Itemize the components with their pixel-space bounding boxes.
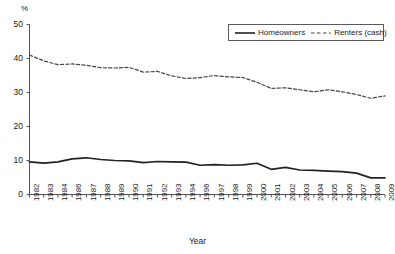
legend-line-dashed-icon (311, 30, 331, 36)
x-axis-title: Year (0, 236, 395, 246)
x-axis-tick-2009: 2009 (388, 183, 395, 200)
x-axis-tick-1993: 1993 (175, 183, 183, 200)
x-axis-tick-1988: 1988 (104, 183, 112, 200)
x-axis-tick-2007: 2007 (360, 183, 368, 200)
x-axis-tick-1983: 1983 (47, 183, 55, 200)
chart-legend: Homeowners Renters (cash) (228, 24, 384, 41)
x-axis-tick-1996: 1996 (203, 183, 211, 200)
y-axis-tick-20: 20 (6, 122, 23, 131)
data-series (30, 55, 386, 178)
x-axis-tick-2005: 2005 (331, 183, 339, 200)
legend-label-homeowners: Homeowners (258, 28, 305, 37)
x-axis-tick-2004: 2004 (317, 183, 325, 200)
x-axis-tick-1987: 1987 (90, 183, 98, 200)
x-axis-tick-1997: 1997 (218, 183, 226, 200)
x-axis-tick-1998: 1998 (232, 183, 240, 200)
x-axis-tick-2003: 2003 (303, 183, 311, 200)
x-axis-tick-1991: 1991 (146, 183, 154, 200)
x-axis-tick-2006: 2006 (346, 183, 354, 200)
y-axis-unit-label: % (21, 4, 28, 13)
x-axis-tick-2000: 2000 (260, 183, 268, 200)
legend-line-solid-icon (235, 30, 255, 36)
x-axis-tick-1990: 1990 (132, 183, 140, 200)
x-axis-tick-2008: 2008 (374, 183, 382, 200)
y-axis-tick-40: 40 (6, 54, 23, 63)
x-axis-tick-1984: 1984 (61, 183, 69, 200)
series-line-renters-cash (30, 55, 386, 98)
y-axis-tick-30: 30 (6, 88, 23, 97)
series-line-homeowners (30, 158, 386, 178)
y-axis-tick-50: 50 (6, 20, 23, 29)
x-axis-tick-1999: 1999 (246, 183, 254, 200)
x-axis-tick-2001: 2001 (274, 183, 282, 200)
x-axis-tick-1982: 1982 (33, 183, 41, 200)
x-axis-tick-2002: 2002 (289, 183, 297, 200)
line-chart: % 01020304050 19821983198419861987198819… (0, 0, 395, 254)
y-axis-tick-10: 10 (6, 156, 23, 165)
legend-entry-renters: Renters (cash) (311, 28, 386, 37)
x-axis-tick-1986: 1986 (75, 183, 83, 200)
x-axis-tick-1989: 1989 (118, 183, 126, 200)
y-axis-tick-0: 0 (6, 190, 23, 199)
legend-label-renters: Renters (cash) (334, 28, 386, 37)
x-axis-tick-1992: 1992 (161, 183, 169, 200)
legend-entry-homeowners: Homeowners (235, 28, 305, 37)
x-axis-tick-1994: 1994 (189, 183, 197, 200)
